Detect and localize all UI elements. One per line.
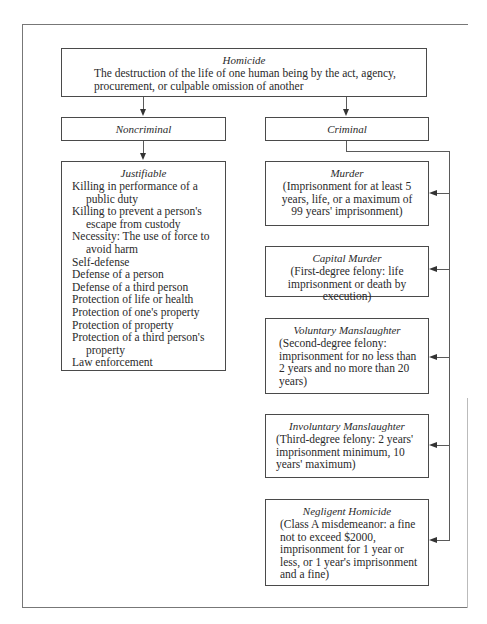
noncriminal-label: Noncriminal xyxy=(62,123,225,136)
voluntary-manslaughter-title: Voluntary Manslaughter xyxy=(274,324,420,337)
involuntary-manslaughter-title: Involuntary Manslaughter xyxy=(270,420,424,433)
capital-murder-title: Capital Murder xyxy=(269,252,425,265)
justifiable-item: Self-defense xyxy=(72,256,221,269)
justifiable-item: Necessity: The use of force to avoid har… xyxy=(72,230,221,255)
justifiable-item: Protection of life or health xyxy=(72,293,221,306)
connector-criminal-right xyxy=(346,151,450,152)
frame-right xyxy=(467,398,468,608)
connector-capital-murder xyxy=(436,269,449,270)
justifiable-item: Law enforcement xyxy=(72,356,221,369)
justifiable-item: Protection of property xyxy=(72,319,221,332)
justifiable-item: Killing in performance of a public duty xyxy=(72,180,221,205)
justifiable-item: Defense of a third person xyxy=(72,281,221,294)
murder-title: Murder xyxy=(272,167,422,180)
frame-bottom xyxy=(22,607,468,608)
connector-voluntary-manslaughter xyxy=(436,357,449,358)
justifiable-item: Protection of one's property xyxy=(72,306,221,319)
arrow-down-icon xyxy=(343,109,349,116)
negligent-homicide-box: Negligent Homicide (Class A misdemeanor:… xyxy=(265,499,429,586)
connector-criminal-bus xyxy=(449,151,450,541)
criminal-box: Criminal xyxy=(265,117,429,141)
noncriminal-box: Noncriminal xyxy=(61,117,226,141)
involuntary-manslaughter-box: Involuntary Manslaughter (Third-degree f… xyxy=(265,414,429,478)
connector-murder xyxy=(436,193,449,194)
voluntary-manslaughter-description: (Second-degree felony: imprisonment for … xyxy=(279,337,419,387)
capital-murder-description: (First-degree felony: life imprisonment … xyxy=(269,265,425,303)
murder-description: (Imprisonment for at least 5 years, life… xyxy=(272,180,422,218)
criminal-label: Criminal xyxy=(266,123,428,136)
frame-top xyxy=(22,24,468,25)
negligent-homicide-title: Negligent Homicide xyxy=(270,505,424,518)
arrow-left-icon xyxy=(429,537,437,543)
justifiable-item: Protection of a third person's property xyxy=(72,331,221,356)
arrow-left-icon xyxy=(429,266,437,272)
justifiable-title: Justifiable xyxy=(66,167,221,180)
homicide-title: Homicide xyxy=(68,54,420,67)
arrow-down-icon xyxy=(140,109,146,116)
homicide-box: Homicide The destruction of the life of … xyxy=(61,48,427,97)
negligent-homicide-description: (Class A misdemeanor: a fine not to exce… xyxy=(280,518,418,581)
arrow-down-icon xyxy=(140,153,146,160)
frame-left xyxy=(22,24,23,608)
arrow-left-icon xyxy=(429,190,437,196)
justifiable-box: Justifiable Killing in performance of a … xyxy=(61,161,226,371)
justifiable-item: Killing to prevent a person's escape fro… xyxy=(72,205,221,230)
homicide-description: The destruction of the life of one human… xyxy=(94,67,420,93)
connector-negligent-homicide xyxy=(436,540,450,541)
capital-murder-box: Capital Murder (First-degree felony: lif… xyxy=(265,246,429,297)
involuntary-manslaughter-description: (Third-degree felony: 2 years' imprisonm… xyxy=(276,433,426,471)
arrow-left-icon xyxy=(429,354,437,360)
justifiable-item: Defense of a person xyxy=(72,268,221,281)
arrow-left-icon xyxy=(429,442,437,448)
connector-involuntary-manslaughter xyxy=(436,445,449,446)
voluntary-manslaughter-box: Voluntary Manslaughter (Second-degree fe… xyxy=(265,318,429,394)
murder-box: Murder (Imprisonment for at least 5 year… xyxy=(265,161,429,226)
